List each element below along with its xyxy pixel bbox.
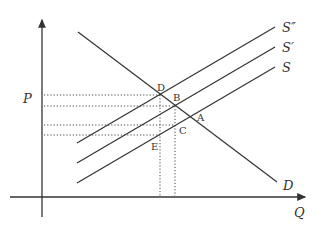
supply-double-prime-label: S″ bbox=[282, 20, 296, 35]
demand-curve bbox=[78, 32, 277, 182]
demand-label: D bbox=[282, 178, 294, 193]
supply-prime-label: S′ bbox=[282, 40, 294, 55]
point-e-label: E bbox=[151, 141, 158, 152]
supply-curve-prime bbox=[77, 47, 275, 163]
point-d-label: D bbox=[157, 82, 165, 93]
supply-demand-diagram: P Q S″ S′ S D D B A C E bbox=[0, 0, 323, 230]
point-a-label: A bbox=[196, 112, 205, 123]
point-c-label: C bbox=[179, 125, 187, 136]
price-axis-label: P bbox=[22, 91, 32, 106]
point-b-label: B bbox=[173, 92, 180, 103]
quantity-axis-label: Q bbox=[294, 205, 305, 220]
supply-label: S bbox=[282, 60, 291, 75]
